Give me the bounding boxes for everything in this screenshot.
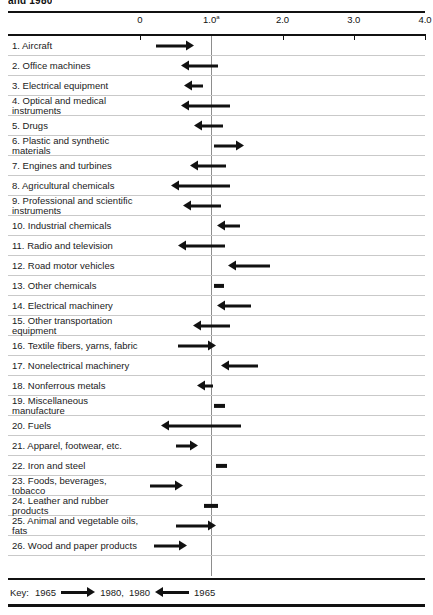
row-plot — [8, 216, 425, 235]
row-plot — [8, 516, 425, 535]
row-plot — [8, 296, 425, 315]
row-plot — [8, 536, 425, 555]
right-arrow-icon — [178, 343, 215, 348]
left-arrow-icon — [194, 123, 223, 128]
left-arrow-icon — [161, 423, 241, 428]
axis-tick-4 — [425, 34, 426, 40]
row-plot — [8, 76, 425, 95]
left-arrow-icon — [193, 323, 230, 328]
row-plot — [8, 196, 425, 215]
table-row: 5. Drugs — [8, 116, 425, 136]
bottom-rule — [8, 604, 425, 607]
table-row: 17. Nonelectrical machinery — [8, 356, 425, 376]
key-left-from: 1980 — [129, 587, 150, 598]
bar-stub — [214, 283, 224, 287]
left-arrow-icon — [181, 103, 229, 108]
row-plot — [8, 476, 425, 495]
bar-stub — [204, 503, 218, 507]
row-plot — [8, 396, 425, 415]
row-plot — [8, 496, 425, 515]
left-arrow-icon — [155, 588, 189, 597]
right-arrow-icon — [214, 143, 244, 148]
row-plot — [8, 456, 425, 475]
left-arrow-icon — [183, 203, 221, 208]
table-row: 7. Engines and turbines — [8, 156, 425, 176]
table-row: 9. Professional and scientific instrumen… — [8, 196, 425, 216]
row-plot — [8, 376, 425, 395]
right-arrow-icon — [61, 588, 95, 597]
left-arrow-icon — [181, 63, 218, 68]
left-arrow-icon — [197, 383, 213, 388]
chart-rows: 1. Aircraft2. Office machines3. Electric… — [8, 36, 425, 556]
table-row: 18. Nonferrous metals — [8, 376, 425, 396]
table-row: 21. Apparel, footwear, etc. — [8, 436, 425, 456]
table-row: 6. Plastic and synthetic materials — [8, 136, 425, 156]
key-prefix: Key: — [10, 587, 29, 598]
row-plot — [8, 56, 425, 75]
left-arrow-icon — [178, 243, 225, 248]
key-right-to: 1980, — [100, 587, 124, 598]
row-plot — [8, 96, 425, 115]
left-arrow-icon — [217, 223, 240, 228]
table-row: 13. Other chemicals — [8, 276, 425, 296]
table-row: 3. Electrical equipment — [8, 76, 425, 96]
right-arrow-icon — [150, 483, 183, 488]
axis-tick-label-3: 3.0 — [347, 14, 360, 25]
table-row: 25. Animal and vegetable oils, fats — [8, 516, 425, 536]
left-arrow-icon — [228, 263, 269, 268]
row-plot — [8, 256, 425, 275]
row-plot — [8, 36, 425, 55]
row-plot — [8, 136, 425, 155]
row-plot — [8, 276, 425, 295]
table-row: 1. Aircraft — [8, 36, 425, 56]
row-plot — [8, 176, 425, 195]
axis-tick-label-2: 2.0 — [276, 14, 289, 25]
chart-page: and 1980 01.0a2.03.04.0 1. Aircraft2. Of… — [0, 0, 433, 615]
table-row: 20. Fuels — [8, 416, 425, 436]
table-row: 10. Industrial chemicals — [8, 216, 425, 236]
axis-tick-label-4: 4.0 — [418, 14, 431, 25]
axis-tick-label-0: 0 — [137, 14, 142, 25]
axis-tick-label-1: 1.0a — [203, 14, 220, 25]
bar-stub — [216, 463, 227, 467]
row-plot — [8, 356, 425, 375]
bar-stub — [214, 403, 225, 407]
row-plot — [8, 336, 425, 355]
key-top-rule — [8, 578, 425, 580]
right-arrow-icon — [154, 543, 187, 548]
row-plot — [8, 116, 425, 135]
row-plot — [8, 436, 425, 455]
table-row: 2. Office machines — [8, 56, 425, 76]
left-arrow-icon — [217, 303, 251, 308]
right-arrow-icon — [176, 523, 216, 528]
left-arrow-icon — [221, 363, 258, 368]
table-row: 12. Road motor vehicles — [8, 256, 425, 276]
row-plot — [8, 236, 425, 255]
chart-key: Key: 1965 1980, 1980 1965 — [10, 583, 215, 601]
left-arrow-icon — [171, 183, 229, 188]
left-arrow-icon — [190, 163, 226, 168]
table-row: 24. Leather and rubber products — [8, 496, 425, 516]
table-row: 14. Electrical machinery — [8, 296, 425, 316]
key-right-from: 1965 — [35, 587, 56, 598]
right-arrow-icon — [156, 43, 194, 48]
right-arrow-icon — [176, 443, 199, 448]
table-row: 4. Optical and medical instruments — [8, 96, 425, 116]
left-arrow-icon — [184, 83, 203, 88]
key-left-to: 1965 — [194, 587, 215, 598]
table-row: 11. Radio and television — [8, 236, 425, 256]
table-row: 22. Iron and steel — [8, 456, 425, 476]
row-plot — [8, 416, 425, 435]
table-row: 15. Other transportation equipment — [8, 316, 425, 336]
x-axis: 01.0a2.03.04.0 — [0, 12, 433, 36]
table-row: 16. Textile fibers, yarns, fabric — [8, 336, 425, 356]
row-plot — [8, 316, 425, 335]
table-row: 19. Miscellaneous manufacture — [8, 396, 425, 416]
table-row: 23. Foods, beverages, tobacco — [8, 476, 425, 496]
page-title: and 1980 — [8, 0, 52, 4]
table-row: 26. Wood and paper products — [8, 536, 425, 556]
table-row: 8. Agricultural chemicals — [8, 176, 425, 196]
row-plot — [8, 156, 425, 175]
